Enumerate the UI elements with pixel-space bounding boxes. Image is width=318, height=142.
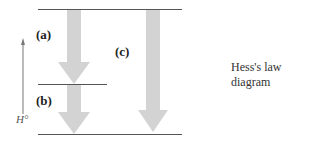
arrow-b xyxy=(58,85,90,134)
label-c: (c) xyxy=(115,44,129,60)
arrow-c xyxy=(138,10,168,132)
diagram-caption: Hess's law diagram xyxy=(231,60,318,90)
arrow-a xyxy=(58,10,90,84)
enthalpy-axis-label: H° xyxy=(16,113,28,125)
label-b: (b) xyxy=(36,93,52,109)
enthalpy-axis-arrowhead xyxy=(21,38,25,45)
label-a: (a) xyxy=(36,27,51,43)
